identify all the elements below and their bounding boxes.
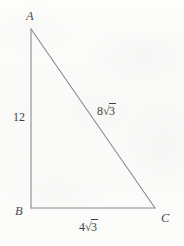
side-bc-radical: √3 [85, 221, 98, 233]
triangle-figure: A B C 12 8√3 4√3 [0, 0, 184, 246]
side-ac-radical: √3 [103, 105, 116, 117]
triangle-drawing [0, 0, 184, 246]
vertex-label-c: C [161, 212, 169, 225]
side-bc-radicand: 3 [91, 219, 98, 234]
vertex-label-a: A [26, 10, 34, 23]
side-length-label-bc: 4√3 [79, 221, 98, 233]
vertex-label-b: B [15, 205, 23, 218]
triangle-side-ac-line [31, 29, 155, 208]
side-ac-radicand: 3 [109, 103, 116, 118]
side-length-label-ab: 12 [13, 111, 25, 123]
side-length-label-ac: 8√3 [97, 105, 116, 117]
